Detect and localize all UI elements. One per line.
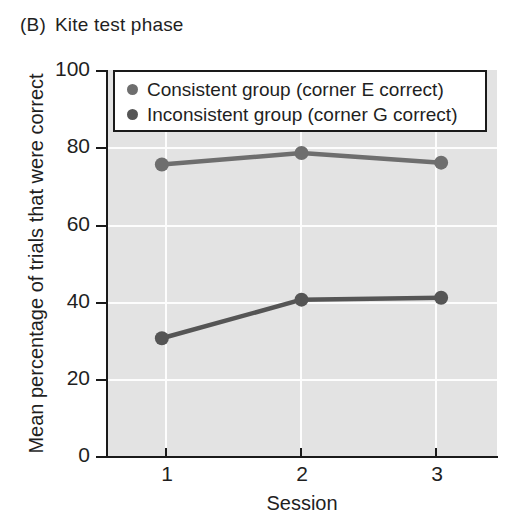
- y-axis-line: [106, 70, 108, 458]
- x-tick-3: [435, 448, 437, 457]
- y-tick-40: [96, 302, 106, 304]
- legend-marker-consistent-icon: [127, 84, 138, 95]
- legend: Consistent group (corner E correct) Inco…: [113, 70, 487, 132]
- x-tick-1: [165, 448, 167, 457]
- y-tick-80: [96, 147, 106, 149]
- y-axis-title: Mean percentage of trials that were corr…: [25, 54, 48, 474]
- legend-item-consistent: Consistent group (corner E correct): [127, 77, 485, 102]
- y-tick-60: [96, 225, 106, 227]
- x-axis-title: Session: [106, 492, 498, 515]
- legend-label-inconsistent: Inconsistent group (corner G correct): [147, 105, 457, 124]
- x-tick-2: [300, 448, 302, 457]
- y-tick-100: [96, 70, 106, 72]
- legend-item-inconsistent: Inconsistent group (corner G correct): [127, 102, 485, 127]
- x-tick-label-2: 2: [282, 462, 322, 486]
- x-tick-label-3: 3: [417, 462, 457, 486]
- legend-marker-inconsistent-icon: [127, 109, 138, 120]
- legend-label-consistent: Consistent group (corner E correct): [147, 80, 444, 99]
- y-tick-0: [96, 456, 106, 458]
- y-tick-20: [96, 379, 106, 381]
- x-tick-label-1: 1: [147, 462, 187, 486]
